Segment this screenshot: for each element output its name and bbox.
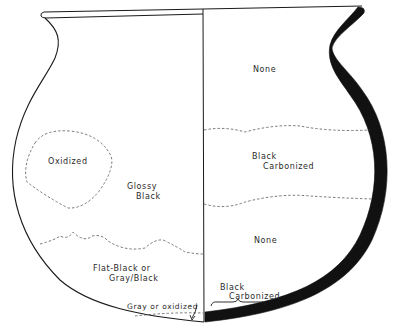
label-flat-black: Flat-Black or xyxy=(93,264,151,274)
label-black-mid: Black xyxy=(252,152,277,162)
pottery-diagram: Oxidized Glossy Black Flat-Black or Gray… xyxy=(0,0,403,332)
center-divider xyxy=(203,9,204,322)
label-carbonized-mid: Carbonized xyxy=(263,162,314,172)
label-glossy: Glossy xyxy=(127,182,157,192)
label-gray-oxidized: Gray or oxidized xyxy=(127,302,198,312)
interior-boundary-lower xyxy=(204,195,373,206)
exterior-zone-boundary xyxy=(40,232,203,254)
oxidized-patch-boundary xyxy=(26,131,112,208)
label-oxidized: Oxidized xyxy=(48,157,88,167)
label-carbonized-base: Carbonized xyxy=(229,292,280,302)
rim-outline xyxy=(41,12,203,18)
label-none-lower: None xyxy=(254,236,277,246)
label-gray-black: Gray/Black xyxy=(109,274,158,284)
interior-boundary-upper xyxy=(204,126,370,132)
label-none-top: None xyxy=(253,65,276,75)
label-black: Black xyxy=(136,192,161,202)
